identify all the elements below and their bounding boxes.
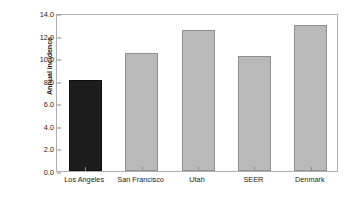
x-axis-label-san-francisco: San Francisco [117,175,164,184]
bar-chart-figure: Annual incidence (per 100,000) 0.02.04.0… [0,0,345,207]
x-axis-tick-mark [311,167,312,171]
y-axis-tick-mark [57,15,61,16]
y-axis-tick-label: 8.0 [44,77,54,86]
y-axis-tick-mark [57,82,61,83]
bar-seer [238,56,271,171]
y-axis-tick-mark [57,37,61,38]
plot-area [56,14,338,172]
x-axis-tick-mark [254,167,255,171]
y-axis-tick-label: 0.0 [44,168,54,177]
x-axis-tick-labels: Los AngelesSan FranciscoUtahSEERDenmark [56,175,338,191]
x-axis-label-denmark: Denmark [295,175,325,184]
y-axis-tick-label: 6.0 [44,100,54,109]
y-axis-tick-label: 4.0 [44,122,54,131]
bar-series [57,15,337,171]
x-axis-tick-mark [198,167,199,171]
y-axis-tick-mark [57,127,61,128]
bar-utah [182,30,215,171]
bar-los-angeles [69,80,102,171]
x-axis-label-utah: Utah [189,175,204,184]
bar-denmark [294,25,327,171]
y-axis-tick-mark [57,60,61,61]
y-axis-tick-mark [57,173,61,174]
y-axis-tick-label: 10.0 [40,55,54,64]
bar-san-francisco [125,53,158,172]
y-axis-tick-mark [57,150,61,151]
x-axis-tick-mark [85,167,86,171]
x-axis-label-seer: SEER [243,175,263,184]
y-axis-tick-label: 12.0 [40,32,54,41]
x-axis-tick-mark [142,167,143,171]
y-axis-tick-label: 2.0 [44,145,54,154]
y-axis-tick-label: 14.0 [40,10,54,19]
y-axis-tick-mark [57,105,61,106]
x-axis-label-los-angeles: Los Angeles [64,175,104,184]
y-axis-tick-labels: 0.02.04.06.08.010.012.014.0 [30,14,54,172]
